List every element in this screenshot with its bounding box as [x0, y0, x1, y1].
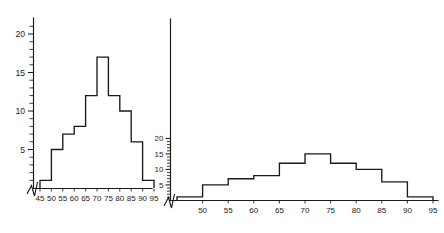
chart-canvas: 5 10 15 20 45 50 55 60 — [0, 0, 444, 233]
left-ytick-label-20: 20 — [15, 29, 25, 39]
right-y-ticks — [166, 138, 171, 197]
right-xtick-label-85: 85 — [377, 206, 386, 215]
right-xtick-label-50: 50 — [198, 206, 207, 215]
right-ytick-label-20: 20 — [155, 134, 164, 143]
left-xtick-label-75: 75 — [104, 194, 113, 203]
left-xtick-label-50: 50 — [47, 194, 56, 203]
left-xtick-label-80: 80 — [115, 194, 124, 203]
left-ytick-label-15: 15 — [15, 68, 25, 78]
left-xtick-label-60: 60 — [70, 194, 79, 203]
left-xtick-label-85: 85 — [127, 194, 136, 203]
right-xtick-label-80: 80 — [352, 206, 361, 215]
left-xtick-label-65: 65 — [81, 194, 90, 203]
histogram-comparison-figure: 5 10 15 20 45 50 55 60 — [0, 0, 444, 233]
right-histogram-outline — [177, 154, 433, 200]
right-xtick-label-95: 95 — [429, 206, 438, 215]
right-xtick-label-55: 55 — [224, 206, 233, 215]
right-xtick-label-70: 70 — [301, 206, 310, 215]
left-ytick-label-10: 10 — [15, 106, 25, 116]
left-histogram-outline — [40, 57, 154, 188]
right-xtick-label-60: 60 — [249, 206, 258, 215]
right-xtick-label-75: 75 — [326, 206, 335, 215]
right-ytick-label-5: 5 — [159, 181, 164, 190]
right-xtick-label-65: 65 — [275, 206, 284, 215]
left-panel: 5 10 15 20 45 50 55 60 — [15, 18, 159, 203]
left-ytick-label-5: 5 — [20, 145, 25, 155]
left-y-ticks — [28, 26, 34, 180]
left-xtick-label-70: 70 — [93, 194, 102, 203]
right-ytick-label-10: 10 — [155, 165, 164, 174]
left-xtick-label-55: 55 — [58, 194, 67, 203]
right-panel: 5 10 15 20 50 55 60 65 70 — [155, 19, 438, 215]
right-ytick-label-15: 15 — [155, 150, 164, 159]
right-xtick-label-90: 90 — [403, 206, 412, 215]
left-xtick-label-95: 95 — [150, 194, 159, 203]
right-axis-break-zigzag — [164, 194, 175, 208]
left-xtick-label-90: 90 — [138, 194, 147, 203]
left-xtick-label-45: 45 — [36, 194, 45, 203]
